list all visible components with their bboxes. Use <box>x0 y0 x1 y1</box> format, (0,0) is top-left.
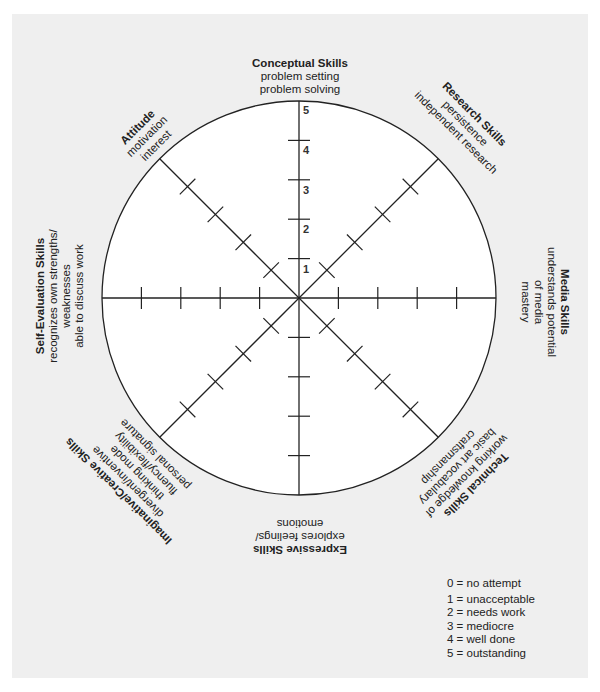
category-title: Self-Evaluation Skills <box>34 216 47 376</box>
legend-item: 2 = needs work <box>447 606 535 620</box>
scale-number: 3 <box>303 184 309 196</box>
legend-item: 0 = no attempt <box>447 577 535 591</box>
wheel-axes <box>102 101 496 495</box>
scale-number: 1 <box>303 263 309 275</box>
category-title: Conceptual Skills <box>220 57 380 70</box>
category-media-skills: Media Skills understands potential of me… <box>519 227 571 377</box>
category-title: Media Skills <box>558 227 571 377</box>
scale-number: 2 <box>303 223 309 235</box>
legend-item: 3 = mediocre <box>447 620 535 634</box>
legend-item: 1 = unacceptable <box>447 593 535 607</box>
score-legend: 0 = no attempt 1 = unacceptable 2 = need… <box>447 577 535 661</box>
category-expressive-skills: Expressive Skills explores feelings/ emo… <box>220 517 380 556</box>
category-title: Expressive Skills <box>220 543 380 556</box>
category-self-evaluation-skills: Self-Evaluation Skills recognizes own st… <box>34 216 86 376</box>
scale-number: 5 <box>303 104 309 116</box>
legend-item: 4 = well done <box>447 633 535 647</box>
category-conceptual-skills: Conceptual Skills problem setting proble… <box>220 57 380 96</box>
scale-number: 4 <box>303 144 310 156</box>
legend-item: 5 = outstanding <box>447 647 535 661</box>
